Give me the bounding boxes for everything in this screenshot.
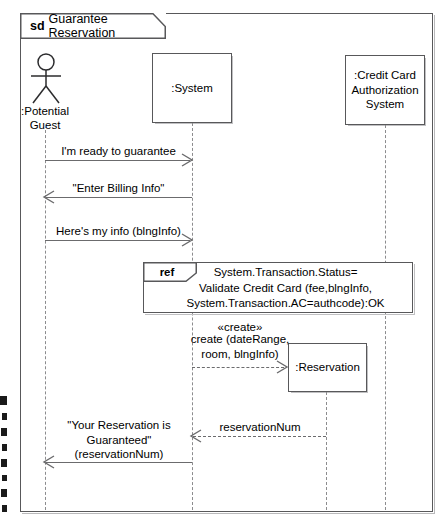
message-line-ready-to-guarantee: [45, 160, 190, 161]
message-line-your-reservation-is-guaranteed: [46, 462, 192, 463]
scan-artifact: [2, 475, 7, 481]
ref-fragment-body: System.Transaction.Status= Validate Cred…: [163, 265, 408, 312]
message-label-ready-to-guarantee: I'm ready to guarantee: [45, 144, 192, 159]
frame-kind-label: sd: [30, 19, 45, 33]
arrowhead-left: [42, 454, 56, 470]
lifeline-label-system: :System: [171, 81, 213, 96]
message-label-reservation-num: reservationNum: [194, 420, 326, 435]
scan-artifact: [1, 489, 7, 497]
scan-artifact: [2, 413, 7, 420]
arrowhead-right: [275, 359, 289, 375]
scan-artifact: [0, 396, 7, 405]
scan-artifact: [1, 428, 7, 436]
arrowhead-right: [180, 232, 194, 248]
lifeline-system: [192, 123, 193, 510]
message-label-your-reservation-is-guaranteed: "Your Reservation is Guaranteed" (reserv…: [46, 418, 192, 462]
message-line-heres-my-info: [45, 240, 190, 241]
arrowhead-left: [42, 189, 56, 205]
lifeline-reservation: [326, 392, 327, 510]
lifeline-head-reservation[interactable]: :Reservation: [288, 343, 367, 392]
lifeline-head-system[interactable]: :System: [152, 53, 232, 123]
message-line-enter-billing-info: [46, 197, 192, 198]
scan-artifact: [1, 459, 7, 467]
lifeline-credit-card-authorization-system: [385, 125, 386, 510]
frame-title-label: Guarantee Reservation: [49, 12, 166, 40]
actor-potential-guest[interactable]: [25, 53, 67, 109]
message-label-heres-my-info: Here's my info (blngInfo): [42, 224, 195, 239]
actor-stick-figure-icon: [25, 53, 67, 105]
arrowhead-right: [180, 152, 194, 168]
lifeline-label-reservation: :Reservation: [295, 360, 360, 375]
message-line-reservation-num: [193, 436, 326, 437]
lifeline-head-credit-card-authorization-system[interactable]: :Credit Card Authorization System: [345, 55, 425, 125]
scan-artifact: [2, 505, 7, 512]
message-label-create-reservation: create (dateRange, room, blngInfo): [187, 332, 293, 361]
message-label-enter-billing-info: "Enter Billing Info": [45, 181, 192, 196]
sequence-diagram-canvas: sd Guarantee Reservation :Potential Gues…: [0, 0, 444, 523]
lifeline-label-credit-card-authorization-system: :Credit Card Authorization System: [351, 68, 418, 112]
frame-name-tab: sd Guarantee Reservation: [20, 13, 166, 39]
scan-artifact: [2, 444, 7, 451]
message-line-create-reservation: [192, 367, 284, 368]
